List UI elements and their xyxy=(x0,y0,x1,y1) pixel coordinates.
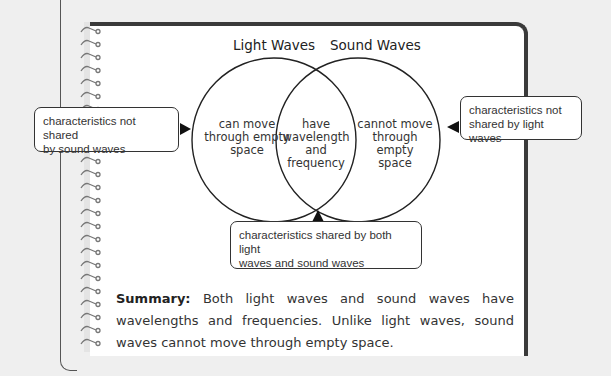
spiral-binding-icon xyxy=(81,28,100,346)
sound-waves-title: Sound Waves xyxy=(330,37,421,53)
callout-not-shared-by-light: characteristics not shared by light wave… xyxy=(460,96,582,140)
region-line: through empty xyxy=(354,131,436,157)
region-line: frequency xyxy=(278,157,354,170)
callout-line: by sound waves xyxy=(43,142,170,156)
callout-line: characteristics shared by both light xyxy=(239,228,413,256)
right-callout-arrow-icon xyxy=(447,121,459,133)
light-waves-title: Light Waves xyxy=(233,37,315,53)
callout-line: characteristics not shared xyxy=(43,114,170,142)
left-callout-arrow-icon xyxy=(180,123,191,135)
summary-paragraph: Summary: Both light waves and sound wave… xyxy=(116,288,514,354)
shared-region: have wavelength and frequency xyxy=(278,118,354,170)
callout-shared-by-both: characteristics shared by both light wav… xyxy=(230,221,422,269)
callout-line: characteristics not xyxy=(469,103,573,117)
summary-label: Summary: xyxy=(116,291,191,306)
callout-line: shared by light waves xyxy=(469,117,573,145)
region-line: space xyxy=(354,157,436,170)
callout-not-shared-by-sound: characteristics not shared by sound wave… xyxy=(34,107,179,152)
sound-only-region: cannot move through empty space xyxy=(354,118,436,170)
callout-line: waves and sound waves xyxy=(239,256,413,270)
